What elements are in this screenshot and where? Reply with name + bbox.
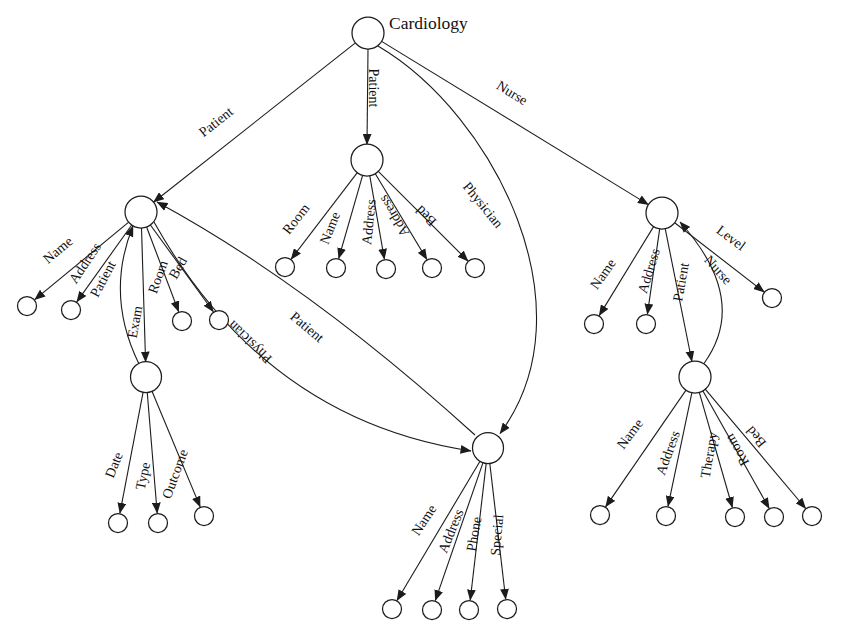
edge-label-patient-middle-room: Room: [280, 201, 313, 237]
edge-label-exam-date: Date: [102, 450, 126, 480]
node-leaf-n-level: [763, 289, 782, 308]
edge-label-patient-left-to-physician: Physician: [225, 318, 275, 367]
node-leaf-ex-date: [109, 514, 128, 533]
node-exam: [131, 362, 162, 393]
node-leaf-pl-address: [62, 301, 81, 320]
node-leaf-pl-name: [18, 297, 37, 316]
node-leaf-ex-type: [149, 514, 168, 533]
node-leaf-n-name: [585, 315, 604, 334]
node-leaf-pm-name: [327, 259, 346, 278]
edge-label-patient-right-address: Address: [653, 429, 683, 477]
cardiology-schema-diagram: PatientPatientPhysicianNurseNameAddressR…: [0, 0, 842, 632]
edge-exam-date: [120, 392, 143, 514]
node-patient-right: [679, 361, 711, 393]
edge-label-patient-left-exam: Exam: [125, 305, 145, 340]
node-patient-left: [125, 196, 157, 228]
edge-label-exam-type: Type: [133, 461, 153, 491]
node-leaf-ph-name: [383, 600, 402, 619]
edge-label-nurse-level: Level: [714, 222, 749, 253]
node-patient-middle: [351, 144, 383, 176]
node-leaf-pr-room: [765, 508, 784, 527]
diagram-page: PatientPatientPhysicianNurseNameAddressR…: [0, 0, 842, 632]
node-leaf-ph-special: [498, 600, 517, 619]
edge-label-root-to-patient-middle: Patient: [366, 69, 381, 108]
node-leaf-pm-address2: [423, 259, 442, 278]
node-leaf-ph-address: [423, 601, 442, 620]
edge-label-patient-right-name: Name: [614, 416, 646, 452]
edge-label-physician-to-patient-left: Patient: [287, 309, 327, 346]
edge-label-patient-middle-bed: Bed: [413, 203, 440, 230]
edge-label-patient-left-room: Room: [145, 258, 171, 295]
node-leaf-pl-room: [173, 312, 192, 331]
edge-label-physician-name: Name: [408, 502, 439, 538]
edge-root-to-physician: [378, 46, 537, 434]
node-leaf-pr-therapy: [726, 508, 745, 527]
node-leaf-ex-outcome: [195, 507, 214, 526]
edge-label-root-to-patient-left: Patient: [196, 104, 236, 140]
node-leaf-pm-address1: [377, 260, 396, 279]
node-physician: [473, 433, 504, 464]
node-leaf-ph-phone: [460, 601, 479, 620]
node-leaf-n-address: [637, 315, 656, 334]
node-leaf-pm-room: [276, 258, 295, 277]
edge-label-nurse-address: Address: [635, 247, 663, 295]
edge-label-patient-left-bed: Bed: [166, 254, 190, 281]
edge-exam-type: [147, 392, 157, 513]
node-nurse: [646, 197, 678, 229]
edge-label-nurse-name: Name: [587, 256, 618, 292]
node-cardiology-root: [352, 17, 384, 49]
edge-label-patient-left-name: Name: [40, 234, 75, 267]
edge-root-to-patient-left: [154, 43, 356, 202]
edge-label-root-to-nurse: Nurse: [494, 78, 530, 108]
edge-patient-left-exam: [142, 228, 146, 362]
edge-physician-to-patient-left: [157, 202, 475, 435]
node-leaf-pr-address: [657, 507, 676, 526]
edge-label-patient-middle-address1: Address: [359, 198, 379, 245]
edge-exam-to-patient-left: [120, 226, 139, 364]
edge-label-physician-special: Special: [488, 514, 507, 556]
labels-layer: PatientPatientPhysicianNurseNameAddressR…: [40, 13, 769, 556]
edge-root-to-nurse: [382, 41, 649, 204]
edge-label-physician-phone: Phone: [464, 515, 485, 552]
edge-label-patient-middle-name: Name: [317, 210, 343, 247]
node-leaf-pr-bed: [803, 507, 822, 526]
node-label-cardiology-root: Cardiology: [389, 13, 468, 33]
edge-label-physician-address: Address: [435, 507, 466, 555]
edge-label-root-to-physician: Physician: [460, 179, 506, 231]
node-leaf-pl-bed: [210, 311, 229, 330]
node-leaf-pr-name: [591, 506, 610, 525]
node-leaf-pm-bed: [466, 259, 485, 278]
edge-label-patient-right-bed: Bed: [743, 424, 769, 451]
